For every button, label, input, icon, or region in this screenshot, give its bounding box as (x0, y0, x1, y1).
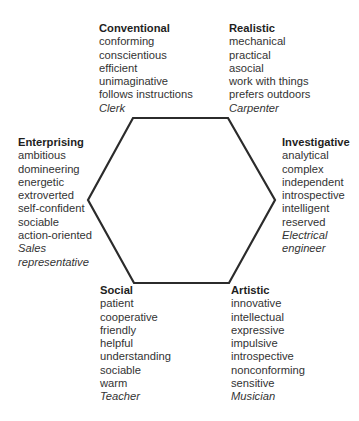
trait: extroverted (18, 189, 92, 202)
trait: sociable (18, 216, 92, 229)
trait: complex (282, 163, 350, 176)
type-title: Investigative (282, 136, 350, 149)
type-conventional: Conventional conforming conscientious ef… (99, 22, 193, 115)
trait: work with things (229, 75, 310, 88)
trait: prefers outdoors (229, 88, 310, 101)
trait: asocial (229, 62, 310, 75)
type-title: Realistic (229, 22, 310, 35)
trait: reserved (282, 216, 350, 229)
occupation: Teacher (100, 390, 171, 403)
occupation: Carpenter (229, 102, 310, 115)
trait: helpful (100, 337, 171, 350)
type-artistic: Artistic innovative intellectual express… (231, 284, 305, 404)
occupation: representative (18, 256, 92, 269)
trait: ambitious (18, 149, 92, 162)
trait: domineering (18, 163, 92, 176)
trait: efficient (99, 62, 193, 75)
trait: introspective (282, 189, 350, 202)
type-title: Social (100, 284, 171, 297)
type-enterprising: Enterprising ambitious domineering energ… (18, 136, 92, 269)
trait: unimaginative (99, 75, 193, 88)
trait: understanding (100, 350, 171, 363)
occupation: Clerk (99, 102, 193, 115)
trait: expressive (231, 324, 305, 337)
trait: intelligent (282, 202, 350, 215)
type-title: Conventional (99, 22, 193, 35)
trait: action-oriented (18, 229, 92, 242)
trait: intellectual (231, 311, 305, 324)
type-realistic: Realistic mechanical practical asocial w… (229, 22, 310, 115)
type-title: Enterprising (18, 136, 92, 149)
type-investigative: Investigative analytical complex indepen… (282, 136, 350, 256)
trait: follows instructions (99, 88, 193, 101)
trait: impulsive (231, 337, 305, 350)
trait: conscientious (99, 49, 193, 62)
trait: introspective (231, 350, 305, 363)
trait: innovative (231, 297, 305, 310)
trait: friendly (100, 324, 171, 337)
trait: conforming (99, 35, 193, 48)
trait: sociable (100, 364, 171, 377)
trait: independent (282, 176, 350, 189)
trait: warm (100, 377, 171, 390)
trait: patient (100, 297, 171, 310)
trait: sensitive (231, 377, 305, 390)
trait: mechanical (229, 35, 310, 48)
occupation: Musician (231, 390, 305, 403)
occupation: Electrical (282, 229, 350, 242)
trait: practical (229, 49, 310, 62)
trait: cooperative (100, 311, 171, 324)
occupation: engineer (282, 242, 350, 255)
trait: nonconforming (231, 364, 305, 377)
trait: energetic (18, 176, 92, 189)
trait: analytical (282, 149, 350, 162)
type-title: Artistic (231, 284, 305, 297)
type-social: Social patient cooperative friendly help… (100, 284, 171, 404)
trait: self-confident (18, 202, 92, 215)
occupation: Sales (18, 242, 92, 255)
